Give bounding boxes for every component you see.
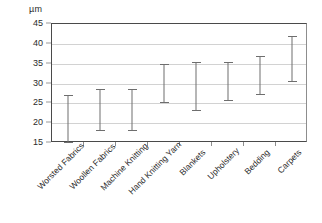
range-bar [164, 64, 165, 104]
x-axis-category-label: Bedding [243, 148, 271, 176]
range-chart: µm 45403530252015 Worsted FabricsWoollen… [0, 0, 322, 223]
range-bar [196, 62, 197, 112]
y-axis-unit-label: µm [29, 4, 42, 14]
range-bar-cap-high [64, 95, 73, 96]
range-bar-cap-high [288, 36, 297, 37]
range-bar-cap-low [128, 130, 137, 131]
range-bar-cap-low [160, 102, 169, 103]
x-axis-tick-mark [243, 142, 244, 146]
range-bar [132, 89, 133, 131]
y-axis-tick-label: 35 [33, 58, 43, 67]
range-bar-cap-low [256, 94, 265, 95]
plot-area [51, 23, 307, 142]
range-bar-cap-low [224, 100, 233, 101]
series-range-bars [52, 24, 306, 141]
y-axis-tick-label: 45 [33, 19, 43, 28]
range-bar-cap-high [160, 64, 169, 65]
range-bar-cap-high [192, 62, 201, 63]
range-bar [68, 95, 69, 143]
y-axis-tick-labels: 45403530252015 [0, 23, 51, 142]
range-bar [228, 62, 229, 102]
y-axis-tick-label: 20 [33, 118, 43, 127]
range-bar-cap-high [128, 89, 137, 90]
x-axis-tick-mark [211, 142, 212, 146]
range-bar-cap-low [288, 81, 297, 82]
x-axis-tick-mark [275, 142, 276, 146]
range-bar-cap-low [96, 130, 105, 131]
x-axis-category-label: Upholstery [206, 146, 241, 181]
range-bar [260, 56, 261, 96]
x-axis-category-label: Carpets [276, 148, 303, 175]
range-bar-cap-high [224, 62, 233, 63]
y-axis-tick-label: 25 [33, 98, 43, 107]
x-axis-category-label: Blankets [178, 148, 207, 177]
range-bar-cap-high [96, 89, 105, 90]
range-bar [292, 36, 293, 82]
range-bar-cap-high [256, 56, 265, 57]
y-axis-tick-label: 30 [33, 78, 43, 87]
y-axis-tick-label: 15 [33, 138, 43, 147]
range-bar [100, 89, 101, 131]
y-axis-tick-label: 40 [33, 38, 43, 47]
range-bar-cap-low [192, 110, 201, 111]
